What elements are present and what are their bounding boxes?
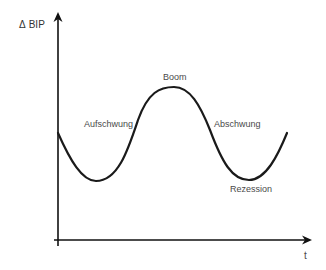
x-axis-label: t [304, 250, 307, 261]
y-axis-label-text: BIP [29, 19, 45, 30]
phase-label-aufschwung: Aufschwung [84, 119, 133, 129]
gdp-cycle-curve [58, 87, 287, 181]
phase-label-rezession: Rezession [230, 184, 272, 194]
phase-label-boom: Boom [163, 72, 187, 82]
business-cycle-diagram [0, 0, 326, 270]
delta-icon: Δ [19, 19, 26, 30]
phase-label-abschwung: Abschwung [214, 119, 261, 129]
y-axis-label: ΔBIP [19, 19, 45, 30]
